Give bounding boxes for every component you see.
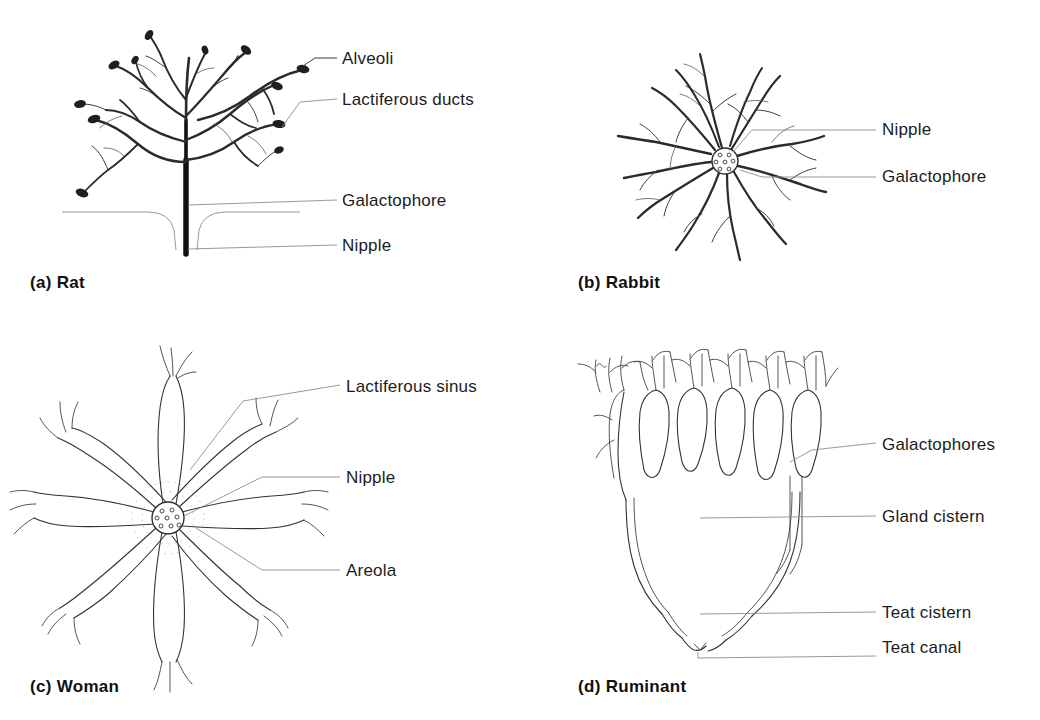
caption-panel-c: (c) Woman <box>30 677 119 696</box>
figure-root: Alveoli Lactiferous ducts Galactophore N… <box>0 0 1040 720</box>
label-nipple-c: Nipple <box>346 468 395 487</box>
duct-opening <box>159 524 163 528</box>
label-galactophore-b: Galactophore <box>882 167 986 186</box>
caption-panel-b: (b) Rabbit <box>578 273 660 292</box>
duct-opening <box>718 153 722 157</box>
duct-opening <box>169 524 173 528</box>
label-areola: Areola <box>346 561 397 580</box>
label-nipple-b: Nipple <box>882 120 931 139</box>
duct-opening <box>165 516 169 520</box>
duct-opening <box>170 508 174 512</box>
label-gland-cistern: Gland cistern <box>882 507 985 526</box>
duct-opening <box>160 509 164 513</box>
duct-opening <box>155 516 159 520</box>
duct-opening <box>175 515 179 519</box>
label-lactiferous-ducts: Lactiferous ducts <box>342 90 474 109</box>
caption-panel-a: (a) Rat <box>30 273 85 292</box>
label-galactophore-a: Galactophore <box>342 191 446 210</box>
duct-opening <box>177 523 181 527</box>
label-nipple-a: Nipple <box>342 236 391 255</box>
caption-panel-d: (d) Ruminant <box>578 677 686 696</box>
label-lactiferous-sinus: Lactiferous sinus <box>346 377 477 396</box>
duct-opening <box>718 167 722 171</box>
label-galactophores: Galactophores <box>882 435 995 454</box>
label-alveoli: Alveoli <box>342 49 393 68</box>
duct-opening <box>723 160 727 164</box>
duct-opening <box>731 159 735 163</box>
duct-opening <box>714 160 718 164</box>
figure-canvas: Alveoli Lactiferous ducts Galactophore N… <box>0 0 1040 720</box>
label-teat-canal: Teat canal <box>882 638 962 657</box>
duct-opening <box>727 153 731 157</box>
duct-opening <box>727 167 731 171</box>
label-teat-cistern: Teat cistern <box>882 603 971 622</box>
